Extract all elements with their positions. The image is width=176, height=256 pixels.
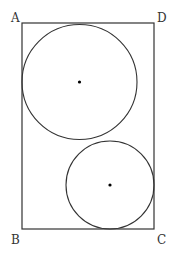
small-circle-center-point — [108, 183, 111, 186]
geometry-diagram — [0, 0, 176, 256]
large-circle-center-point — [78, 80, 81, 83]
vertex-label-d: D — [157, 12, 167, 24]
vertex-label-c: C — [157, 234, 166, 246]
vertex-label-b: B — [11, 234, 20, 246]
vertex-label-a: A — [11, 12, 20, 24]
